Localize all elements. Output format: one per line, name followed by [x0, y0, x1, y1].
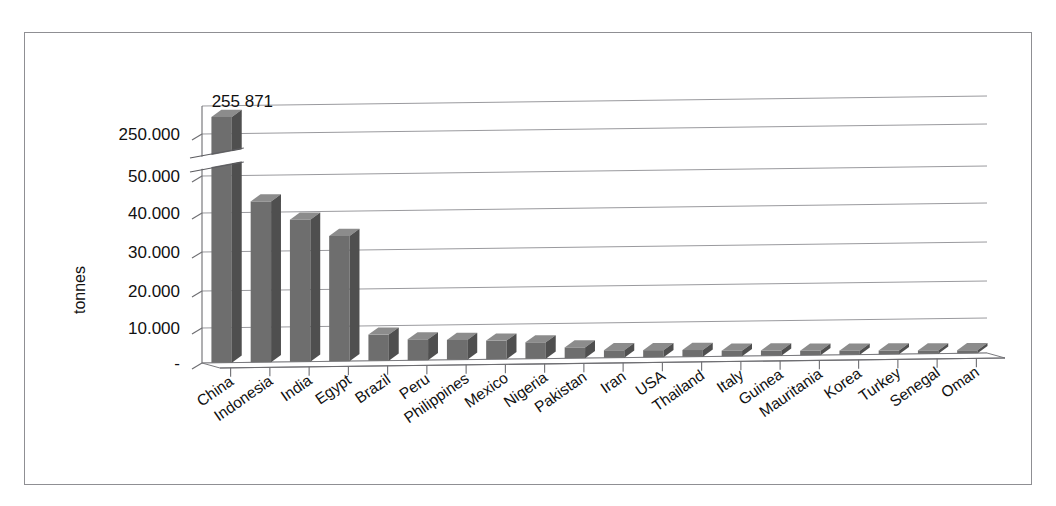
- bar-value-label: 255 871: [212, 92, 273, 111]
- bar-front-face: [879, 351, 899, 355]
- bar: [525, 335, 555, 359]
- axis-tick-mark: [192, 291, 202, 297]
- category-axis-label: Brazil: [352, 370, 394, 406]
- gridline: [202, 166, 987, 176]
- axis-tick-mark: [192, 363, 202, 369]
- bar-front-face: [251, 201, 271, 362]
- axis-tick-mark: [192, 134, 202, 140]
- bar-side-face: [232, 110, 242, 363]
- bar: [800, 344, 830, 356]
- axis-tick-mark: [192, 328, 202, 334]
- category-axis-label: Mexico: [461, 369, 511, 411]
- value-axis-tick-label: 30.000: [128, 243, 180, 262]
- bar: [368, 327, 398, 360]
- bar-side-face: [350, 229, 360, 361]
- bar-front-face: [800, 351, 820, 355]
- category-axis-label: Iran: [597, 367, 629, 396]
- bars: [211, 110, 987, 363]
- axis-tick-mark: [192, 176, 202, 182]
- bar-front-face: [957, 350, 977, 353]
- bar: [486, 333, 516, 359]
- value-axis-title: tonnes: [71, 266, 88, 314]
- bar: [604, 343, 634, 358]
- bar-front-face: [722, 351, 742, 357]
- category-axis-label: India: [278, 371, 316, 404]
- bar-front-face: [486, 341, 506, 360]
- bar-side-face: [271, 194, 281, 362]
- bar: [879, 343, 909, 354]
- bar-front-face: [918, 350, 938, 353]
- bar-front-face: [525, 342, 545, 358]
- plot-top-line: [202, 96, 987, 106]
- chart-floor: [202, 353, 1005, 368]
- bar: [211, 110, 241, 363]
- bar: [329, 229, 359, 361]
- bar: [682, 343, 712, 357]
- bar-front-face: [604, 350, 624, 357]
- axis-tick-mark: [192, 252, 202, 258]
- bar: [251, 194, 281, 362]
- value-axis-tick-label: -: [174, 354, 180, 373]
- bar: [643, 343, 673, 357]
- bar: [565, 340, 595, 358]
- category-axis-label: Korea: [821, 364, 865, 402]
- value-axis-labels: 250.00050.00040.00030.00020.00010.000-: [119, 125, 180, 373]
- bar-front-face: [839, 351, 859, 355]
- bar-front-face: [408, 339, 428, 360]
- value-axis-tick-label: 20.000: [128, 282, 180, 301]
- value-axis-tick-label: 40.000: [128, 204, 180, 223]
- bar-front-face: [329, 236, 349, 361]
- category-axis-label: Egypt: [312, 370, 355, 407]
- bar: [839, 343, 869, 354]
- value-axis-tick-label: 250.000: [119, 125, 180, 144]
- bar-front-face: [447, 340, 467, 360]
- axis-tick-mark: [192, 213, 202, 219]
- bar-front-face: [761, 351, 781, 356]
- category-axis-label: Oman: [938, 363, 982, 401]
- value-axis-tick-label: 10.000: [128, 319, 180, 338]
- bar-front-face: [643, 350, 663, 357]
- bar-front-face: [290, 220, 310, 362]
- bar-chart: 250.00050.00040.00030.00020.00010.000-to…: [25, 33, 1033, 486]
- gridline: [202, 203, 987, 213]
- bar: [722, 343, 752, 356]
- gridline: [202, 124, 987, 134]
- bar: [761, 343, 791, 355]
- bar-front-face: [368, 335, 388, 361]
- chart-frame: 250.00050.00040.00030.00020.00010.000-to…: [24, 32, 1032, 485]
- bar-side-face: [310, 212, 320, 361]
- category-axis: ChinaIndonesiaIndiaEgyptBrazilPeruPhilip…: [193, 358, 1005, 426]
- bar: [290, 212, 320, 361]
- bar-front-face: [565, 347, 585, 358]
- bar: [918, 343, 948, 354]
- value-axis-tick-label: 50.000: [128, 167, 180, 186]
- bar: [408, 332, 438, 360]
- bar-front-face: [682, 350, 702, 357]
- bar: [957, 343, 987, 353]
- bar: [447, 333, 477, 360]
